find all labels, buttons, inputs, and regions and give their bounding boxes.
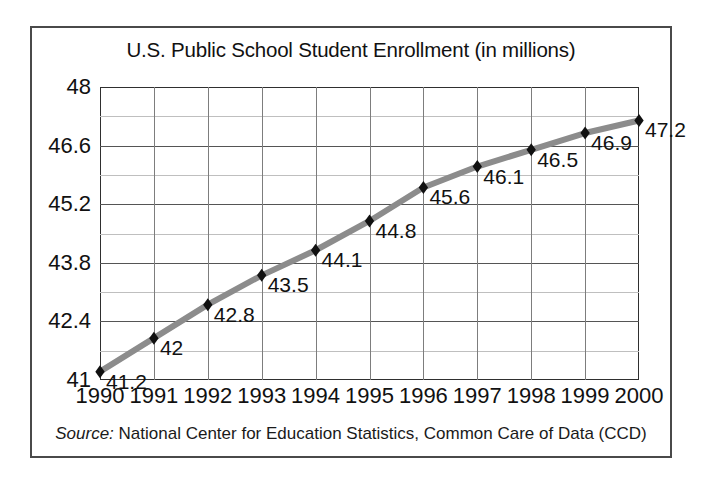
x-axis-tick-label: 1995 (345, 383, 394, 409)
data-point-marker (473, 160, 482, 173)
data-point-label: 42 (160, 336, 183, 360)
y-axis-tick-label: 45.2 (48, 191, 91, 217)
data-point-label: 44.8 (376, 219, 417, 243)
x-axis-tick-label: 1993 (237, 383, 286, 409)
plot-area: 4142.443.845.246.648 1990199119921993199… (100, 87, 639, 380)
chart-title: U.S. Public School Student Enrollment (i… (32, 38, 670, 62)
data-point-label: 43.5 (268, 273, 309, 297)
x-axis-tick-label: 1998 (507, 383, 556, 409)
data-point-label: 46.9 (591, 131, 632, 155)
x-axis-tick-label: 2000 (615, 383, 664, 409)
x-axis-tick-label: 1999 (561, 383, 610, 409)
data-point-marker (527, 143, 536, 156)
data-point-label: 45.6 (429, 185, 470, 209)
data-point-marker (634, 114, 643, 127)
data-point-label: 44.1 (322, 248, 363, 272)
y-axis-tick-label: 48 (67, 74, 91, 100)
source-note: Source: National Center for Education St… (32, 424, 670, 444)
chart-figure-frame: U.S. Public School Student Enrollment (i… (30, 26, 672, 458)
data-point-label: 47.2 (645, 118, 686, 142)
x-axis-tick-label: 1996 (399, 383, 448, 409)
source-text: National Center for Education Statistics… (119, 424, 647, 443)
x-axis-tick-label: 1994 (291, 383, 340, 409)
data-point-label: 42.8 (214, 303, 255, 327)
y-axis-tick-label: 43.8 (48, 250, 91, 276)
x-axis-tick-label: 1997 (453, 383, 502, 409)
y-axis-tick-label: 42.4 (48, 308, 91, 334)
y-axis-tick-label: 46.6 (48, 133, 91, 159)
source-label: Source: (55, 424, 114, 443)
x-axis-tick-label: 1992 (183, 383, 232, 409)
data-point-marker (580, 127, 589, 140)
data-point-label: 46.5 (537, 148, 578, 172)
data-point-label: 46.1 (483, 165, 524, 189)
data-point-label: 41.2 (106, 370, 147, 394)
